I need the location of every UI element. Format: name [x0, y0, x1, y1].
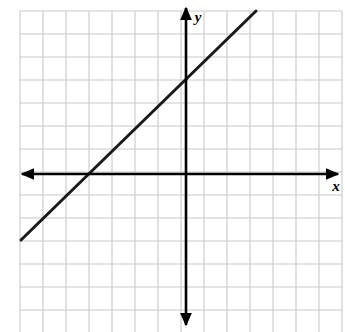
y-axis-label: y: [193, 9, 202, 25]
x-axis-label: x: [331, 178, 340, 194]
coordinate-plane-figure: x y: [0, 0, 345, 332]
plot-background: [0, 0, 345, 332]
graph-canvas: x y: [0, 0, 345, 332]
